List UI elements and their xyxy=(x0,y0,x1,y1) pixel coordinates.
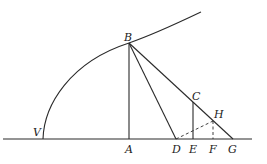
point-label-E: E xyxy=(188,143,197,156)
segment-DH xyxy=(176,121,213,139)
point-label-A: A xyxy=(124,143,133,156)
point-label-H: H xyxy=(213,108,224,121)
point-label-B: B xyxy=(123,31,132,44)
parabola-curve xyxy=(43,12,201,139)
segment-BD xyxy=(129,43,176,139)
point-label-G: G xyxy=(228,143,237,156)
point-label-V: V xyxy=(33,126,42,139)
point-label-D: D xyxy=(171,143,181,156)
point-label-F: F xyxy=(208,143,217,156)
parabola-diagram: V B A D E F G C H xyxy=(0,0,267,164)
segment-BG xyxy=(129,43,233,139)
point-label-C: C xyxy=(192,90,201,103)
